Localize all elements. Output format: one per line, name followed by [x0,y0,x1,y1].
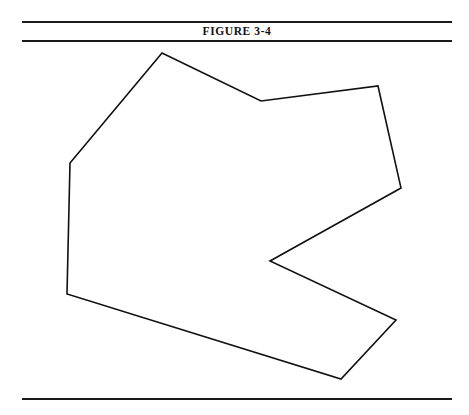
polygon-diagram [0,44,469,394]
figure-drawing-area [0,44,469,394]
figure-caption-label: FIGURE 3-4 [22,23,452,39]
footer-rule [22,398,452,400]
figure-page: FIGURE 3-4 [0,0,469,415]
figure-caption-block: FIGURE 3-4 [22,21,452,43]
caption-rule-bottom [22,40,452,42]
irregular-concave-polygon [67,53,401,379]
